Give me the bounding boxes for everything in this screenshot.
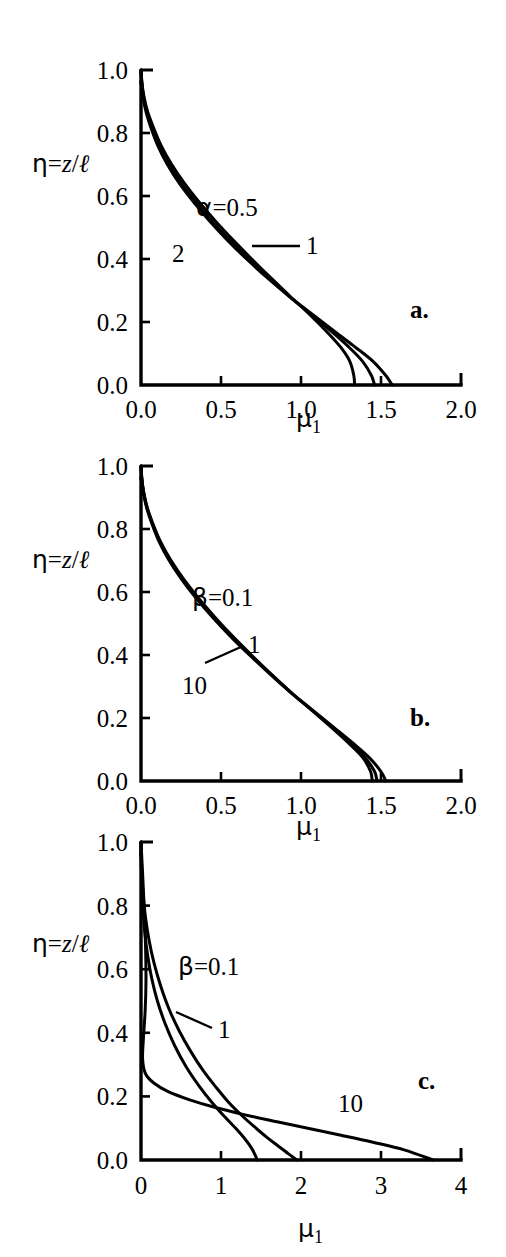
label-alpha-0p5: α=0.5 [196, 193, 258, 222]
panel-a-axes [141, 70, 461, 385]
panel-b-y-axis-title: η=z/ℓ [32, 545, 90, 574]
tick-label: 0.4 [97, 642, 129, 669]
plot-axis-spine [141, 854, 461, 1160]
curve-beta-1 [141, 466, 377, 781]
tick-label: 0.2 [97, 309, 128, 336]
panel-a-y-tick-labels: 0.00.20.40.60.81.0 [97, 57, 129, 399]
panel-a: 0.00.51.01.52.0 0.00.20.40.60.81.0 η=z/ℓ… [0, 0, 506, 440]
panel-c-axes [141, 842, 461, 1160]
panel-c-curves [141, 842, 433, 1160]
tick-label: 1.0 [97, 829, 128, 856]
tick-label: 0 [135, 1172, 148, 1199]
label-beta-1: 1 [248, 631, 261, 658]
panel-c-letter: c. [418, 1067, 435, 1094]
leader-line-beta-1 [176, 1012, 212, 1028]
curve-alpha-1 [141, 70, 375, 385]
tick-label: 0.4 [97, 246, 129, 273]
tick-label: 1.0 [97, 57, 128, 84]
plot-axis-spine [141, 82, 461, 385]
tick-label: 0.6 [97, 956, 128, 983]
panel-a-curves [141, 70, 392, 385]
panel-b: 0.00.51.01.52.0 0.00.20.40.60.81.0 η=z/ℓ… [0, 408, 506, 848]
panel-b-plot: 0.00.51.01.52.0 0.00.20.40.60.81.0 η=z/ℓ… [0, 408, 506, 848]
panel-c-plot: 01234 0.00.20.40.60.81.0 η=z/ℓ μ1 β=0.1 … [0, 812, 506, 1257]
tick-label: 1 [215, 1172, 228, 1199]
tick-label: 0.0 [97, 1147, 128, 1174]
leader-line-beta-1 [205, 646, 243, 663]
label-beta-10: 10 [182, 672, 207, 699]
panel-a-y-axis-title: η=z/ℓ [32, 149, 90, 178]
panel-b-curves [141, 466, 386, 781]
tick-label: 0.6 [97, 183, 128, 210]
curve-beta-10 [141, 842, 433, 1160]
panel-c-y-tick-labels: 0.00.20.40.60.81.0 [97, 829, 129, 1174]
tick-label: 0.8 [97, 516, 128, 543]
curve-beta-0p1 [141, 466, 386, 781]
curve-alpha-0p5 [141, 70, 392, 385]
tick-label: 0.4 [97, 1020, 129, 1047]
figure-root: 0.00.51.01.52.0 0.00.20.40.60.81.0 η=z/ℓ… [0, 0, 506, 1257]
tick-label: 3 [375, 1172, 388, 1199]
plot-axis-spine [141, 478, 461, 781]
panel-c-x-axis-title: μ1 [298, 1214, 323, 1247]
curve-alpha-2 [141, 70, 355, 385]
label-beta-0p1: β=0.1 [178, 952, 239, 981]
panel-b-axes [141, 466, 461, 781]
curve-beta-10 [141, 466, 372, 781]
panel-c-y-axis-title: η=z/ℓ [32, 929, 90, 958]
panel-c: 01234 0.00.20.40.60.81.0 η=z/ℓ μ1 β=0.1 … [0, 812, 506, 1257]
tick-label: 0.2 [97, 705, 128, 732]
label-beta-1: 1 [218, 1016, 231, 1043]
tick-label: 2 [295, 1172, 308, 1199]
tick-label: 0.0 [97, 372, 128, 399]
tick-label: 0.8 [97, 893, 128, 920]
panel-c-x-tick-labels: 01234 [135, 1172, 468, 1199]
tick-label: 0.6 [97, 579, 128, 606]
tick-label: 1.0 [97, 453, 128, 480]
panel-b-letter: b. [410, 704, 430, 731]
label-beta-0p1: β=0.1 [192, 583, 253, 612]
tick-label: 4 [455, 1172, 468, 1199]
panel-a-plot: 0.00.51.01.52.0 0.00.20.40.60.81.0 η=z/ℓ… [0, 0, 506, 440]
panel-b-y-tick-labels: 0.00.20.40.60.81.0 [97, 453, 129, 795]
tick-label: 0.2 [97, 1083, 128, 1110]
label-beta-10: 10 [338, 1090, 363, 1117]
tick-label: 0.8 [97, 120, 128, 147]
label-alpha-2: 2 [172, 240, 185, 267]
label-alpha-1: 1 [306, 232, 319, 259]
tick-label: 0.0 [97, 768, 128, 795]
panel-a-letter: a. [410, 296, 429, 323]
